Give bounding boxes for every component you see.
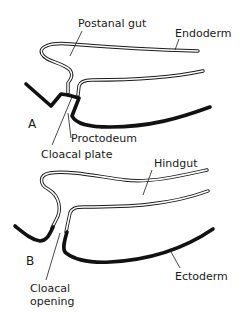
- label-endoderm: Endoderm: [175, 27, 231, 40]
- panel-b-hindgut-lower: [66, 191, 208, 232]
- panel-a-ectoderm-right: [68, 95, 210, 127]
- label-proctodeum: Proctodeum: [71, 132, 137, 145]
- label-cloacal-opening-line2: opening: [30, 295, 74, 308]
- panel-a: Postanal gut Endoderm Proctodeum Cloacal…: [26, 17, 231, 161]
- panel-label-b: B: [26, 254, 34, 268]
- panel-a-endoderm-lower: [78, 71, 203, 95]
- label-ectoderm: Ectoderm: [175, 270, 228, 283]
- leader-ectoderm: [170, 250, 180, 268]
- panel-b-ectoderm-left: [15, 226, 53, 241]
- label-cloacal-opening-line1: Cloacal: [30, 282, 70, 295]
- leader-cloacal-opening: [46, 233, 60, 280]
- panel-a-ectoderm-left: [26, 84, 68, 106]
- leader-endoderm-a: [175, 39, 179, 50]
- panel-label-a: A: [28, 117, 37, 131]
- label-postanal-gut: Postanal gut: [78, 17, 147, 30]
- leader-hindgut: [143, 170, 152, 195]
- panel-b-ectoderm-right: [64, 229, 213, 262]
- embryo-cloaca-diagram: Postanal gut Endoderm Proctodeum Cloacal…: [0, 0, 242, 323]
- label-hindgut: Hindgut: [154, 157, 198, 170]
- label-cloacal-plate: Cloacal plate: [41, 148, 113, 161]
- panel-b: Hindgut Ectoderm Cloacal opening B: [15, 157, 228, 308]
- panel-a-endoderm-upper: [41, 44, 198, 93]
